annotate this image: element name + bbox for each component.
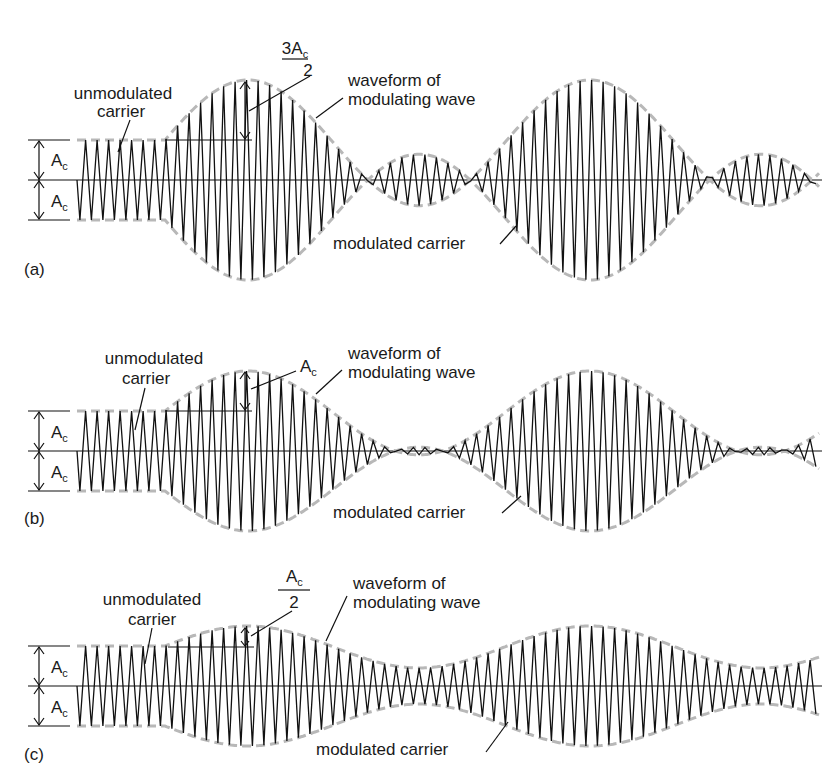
- am-modulation-diagram: Ac Ac 3Ac 2 unmodulated carrier waveform…: [0, 0, 837, 775]
- svg-text:Ac: Ac: [51, 658, 68, 679]
- leader-unmodulated-a: [118, 120, 130, 152]
- panel-c: Ac Ac Ac 2 unmodulated carrier waveform …: [24, 567, 822, 764]
- svg-text:2: 2: [303, 61, 312, 80]
- svg-text:modulating wave: modulating wave: [348, 363, 476, 382]
- svg-text:carrier: carrier: [122, 369, 171, 388]
- label-unmodulated-b: unmodulated: [105, 349, 203, 368]
- svg-text:Ac: Ac: [51, 423, 68, 444]
- panel-label-c: (c): [24, 745, 44, 764]
- label-modulated-b: modulated carrier: [333, 503, 466, 522]
- label-waveform-b: waveform of: [347, 344, 441, 363]
- panel-b: Ac Ac Ac unmodulated carrier waveform of…: [24, 344, 822, 531]
- svg-text:Ac: Ac: [51, 192, 68, 213]
- svg-text:Ac: Ac: [286, 567, 303, 588]
- svg-text:Ac: Ac: [51, 698, 68, 719]
- svg-text:modulating wave: modulating wave: [348, 90, 476, 109]
- svg-text:modulating wave: modulating wave: [353, 593, 481, 612]
- label-unmodulated-c: unmodulated: [103, 590, 201, 609]
- svg-text:Ac: Ac: [51, 463, 68, 484]
- label-unmodulated-a: unmodulated: [74, 84, 172, 103]
- svg-text:Ac: Ac: [51, 151, 68, 172]
- svg-text:Ac: Ac: [300, 357, 317, 378]
- label-waveform-c: waveform of: [352, 574, 446, 593]
- svg-text:3Ac: 3Ac: [282, 39, 309, 60]
- panel-a: Ac Ac 3Ac 2 unmodulated carrier waveform…: [24, 39, 822, 280]
- svg-text:carrier: carrier: [128, 610, 177, 629]
- panel-label-b: (b): [24, 509, 45, 528]
- label-waveform-a: waveform of: [347, 71, 441, 90]
- label-modulated-a: modulated carrier: [333, 234, 466, 253]
- panel-label-a: (a): [24, 260, 45, 279]
- peak-dimension-a: 3Ac 2: [165, 39, 313, 140]
- label-modulated-c: modulated carrier: [316, 740, 449, 759]
- svg-text:2: 2: [289, 593, 298, 612]
- svg-text:carrier: carrier: [97, 102, 146, 121]
- envelope-lower-a: [77, 181, 819, 280]
